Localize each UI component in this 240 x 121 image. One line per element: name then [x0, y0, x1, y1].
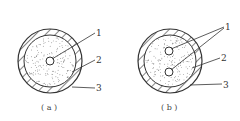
stipple-dot: [58, 70, 59, 71]
stipple-dot: [55, 72, 56, 73]
stipple-dot: [172, 43, 173, 44]
stipple-dot: [176, 41, 177, 42]
stipple-dot: [180, 40, 181, 41]
stipple-dot: [181, 39, 182, 40]
stipple-dot: [164, 77, 165, 78]
stipple-dot: [148, 60, 149, 61]
stipple-dot: [32, 60, 33, 61]
stipple-dot: [35, 74, 36, 75]
stipple-dot: [163, 39, 164, 40]
stipple-dot: [64, 60, 65, 61]
stipple-dot: [59, 74, 60, 75]
stipple-dot: [50, 46, 51, 47]
stipple-dot: [31, 56, 32, 57]
stipple-dot: [25, 60, 26, 61]
stipple-dot: [38, 62, 39, 63]
stipple-dot: [152, 43, 153, 44]
stipple-dot: [159, 66, 160, 67]
stipple-dot: [175, 37, 176, 38]
stipple-dot: [177, 79, 178, 80]
stipple-dot: [179, 71, 180, 72]
stipple-dot: [169, 60, 170, 61]
stipple-dot: [188, 61, 189, 62]
stipple-dot: [47, 54, 48, 55]
stipple-dot: [50, 84, 51, 85]
stipple-dot: [165, 40, 166, 41]
stipple-dot: [157, 69, 158, 70]
stipple-dot: [32, 46, 33, 47]
stipple-dot: [57, 59, 58, 60]
stipple-dot: [36, 67, 37, 68]
stipple-dot: [188, 54, 189, 55]
stipple-dot: [43, 43, 44, 44]
stipple-dot: [179, 60, 180, 61]
label-3-b: 3: [223, 80, 229, 90]
stipple-dot: [159, 60, 160, 61]
stipple-dot: [72, 64, 73, 65]
stipple-dot: [53, 40, 54, 41]
stipple-dot: [59, 46, 60, 47]
stipple-dot: [43, 39, 44, 40]
stipple-dot: [160, 52, 161, 53]
label-2-b: 2: [221, 53, 227, 63]
stipple-dot: [58, 62, 59, 63]
stipple-dot: [179, 80, 180, 81]
stipple-dot: [27, 58, 28, 59]
stipple-dot: [29, 72, 30, 73]
stipple-dot: [53, 56, 54, 57]
stipple-dot: [41, 67, 42, 68]
stipple-dot: [52, 77, 53, 78]
stipple-dot: [48, 38, 49, 39]
stipple-dot: [153, 67, 154, 68]
stipple-dot: [161, 58, 162, 59]
stipple-dot: [183, 56, 184, 57]
stipple-dot: [173, 55, 174, 56]
stipple-dot: [65, 56, 66, 57]
stipple-dot: [172, 60, 173, 61]
stipple-dot: [57, 73, 58, 74]
stipple-dot: [146, 60, 147, 61]
stipple-dot: [161, 58, 162, 59]
stipple-dot: [40, 59, 41, 60]
stipple-dot: [52, 71, 53, 72]
stipple-dot: [151, 46, 152, 47]
stipple-dot: [58, 66, 59, 67]
stipple-dot: [159, 59, 160, 60]
stipple-dot: [47, 85, 48, 86]
stipple-dot: [181, 67, 182, 68]
stipple-dot: [63, 61, 64, 62]
stipple-dot: [59, 63, 60, 64]
stipple-dot: [62, 63, 63, 64]
stipple-dot: [167, 64, 168, 65]
stipple-dot: [57, 48, 58, 49]
stipple-dot: [70, 62, 71, 63]
stipple-dot: [178, 70, 179, 71]
stipple-dot: [160, 64, 161, 65]
stipple-dot: [33, 63, 34, 64]
stipple-dot: [176, 68, 177, 69]
stipple-dot: [56, 38, 57, 39]
stipple-dot: [179, 42, 180, 43]
stipple-dot: [58, 79, 59, 80]
stipple-dot: [46, 65, 47, 66]
stipple-dot: [39, 65, 40, 66]
stipple-dot: [57, 49, 58, 50]
stipple-dot: [49, 53, 50, 54]
stipple-dot: [38, 52, 39, 53]
stipple-dot: [184, 55, 185, 56]
stipple-dot: [171, 77, 172, 78]
caption-a: ( a ): [41, 103, 57, 112]
stipple-dot: [164, 64, 165, 65]
stipple-dot: [61, 61, 62, 62]
stipple-dot: [48, 69, 49, 70]
stipple-dot: [189, 74, 190, 75]
stipple-dot: [158, 70, 159, 71]
label-2-a: 2: [96, 55, 102, 65]
stipple-dot: [67, 70, 68, 71]
stipple-dot: [186, 66, 187, 67]
stipple-dot: [154, 56, 155, 57]
stipple-dot: [157, 48, 158, 49]
stipple-dot: [59, 43, 60, 44]
stipple-dot: [152, 63, 153, 64]
stipple-dot: [49, 83, 50, 84]
